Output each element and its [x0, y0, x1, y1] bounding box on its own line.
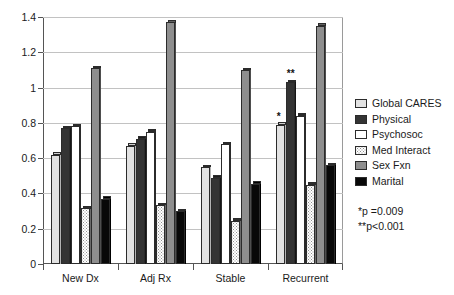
bar-cap: [233, 218, 241, 221]
bar-cap: [223, 142, 231, 145]
bar-cap: [308, 182, 316, 185]
y-axis-tick-label: 1.4: [21, 12, 36, 22]
bar-group: ***: [268, 17, 343, 264]
y-axis-tick-label: 1: [30, 83, 36, 93]
bar-cap: [53, 152, 61, 155]
bar-face: [211, 178, 219, 264]
legend-item[interactable]: Med Interact: [355, 143, 454, 159]
bar-cap: [63, 126, 71, 129]
legend-item[interactable]: Global CARES: [355, 96, 454, 112]
bar: [241, 70, 249, 264]
bar: [176, 211, 184, 264]
y-axis: 00.20.40.60.811.21.4: [0, 0, 43, 295]
bar-face: [101, 199, 109, 264]
legend-item-label: Sex Fxn: [372, 160, 411, 171]
legend-item[interactable]: Physical: [355, 112, 454, 128]
bar-cap: [168, 20, 176, 23]
swatch-med-interact-icon: [355, 146, 367, 155]
y-axis-tick-label: 0.6: [21, 153, 36, 163]
x-axis-tick: [268, 264, 269, 270]
bar-face: [51, 155, 59, 264]
bar-face: [231, 221, 239, 264]
bar-cap: [178, 209, 186, 212]
bar-face: [326, 165, 334, 264]
legend-item-label: Physical: [372, 114, 411, 125]
y-axis-tick-label: 0: [30, 259, 36, 269]
bar: [166, 22, 174, 264]
bar: [146, 132, 154, 264]
legend-item-label: Psychosoc: [372, 129, 423, 140]
bar-cap: [288, 80, 296, 83]
x-axis-tick: [118, 264, 119, 270]
bar-cap: [213, 175, 221, 178]
bar-face: [126, 146, 134, 264]
x-axis-tick: [43, 264, 44, 270]
bar-group: [43, 17, 118, 264]
legend-item[interactable]: Marital: [355, 174, 454, 190]
bar-cap: [148, 129, 156, 132]
x-axis-ticks: [43, 264, 343, 272]
bar-face: [276, 125, 284, 264]
bar: [211, 178, 219, 264]
bar-cap: [328, 163, 336, 166]
significance-marker: **: [287, 69, 295, 78]
bar-group: [118, 17, 193, 264]
bar: [101, 199, 109, 264]
bar: [276, 125, 284, 264]
bar-side: [185, 209, 187, 264]
bar-groups: ***: [43, 17, 343, 264]
bar: [51, 155, 59, 264]
bar: [316, 26, 324, 264]
bar: [61, 128, 69, 264]
bar-chart: 00.20.40.60.811.21.4 *** New DxAdj RxSta…: [0, 0, 454, 295]
bar-cap: [278, 122, 286, 125]
x-axis-category-label: Adj Rx: [118, 272, 193, 284]
x-axis-category-label: Recurrent: [268, 272, 343, 284]
swatch-psychosoc-icon: [355, 130, 367, 139]
bar-face: [71, 126, 79, 264]
bar: [306, 185, 314, 264]
bar-face: [306, 185, 314, 264]
bar: [71, 126, 79, 264]
plot-area: ***: [43, 17, 343, 264]
bar: [251, 184, 259, 264]
legend: Global CARESPhysicalPsychosocMed Interac…: [355, 96, 454, 189]
swatch-physical-icon: [355, 115, 367, 124]
legend-item[interactable]: Sex Fxn: [355, 158, 454, 174]
x-axis-labels: New DxAdj RxStableRecurrent: [43, 272, 343, 290]
bar-face: [296, 116, 304, 264]
swatch-global-cares-icon: [355, 99, 367, 108]
bar: [221, 144, 229, 264]
bar-face: [61, 128, 69, 264]
bar: [136, 139, 144, 264]
significance-marker: *: [277, 112, 281, 121]
bar: [156, 205, 164, 264]
bar-face: [201, 167, 209, 264]
legend-item-label: Med Interact: [372, 145, 430, 156]
x-axis-tick: [342, 264, 343, 270]
x-axis-tick: [193, 264, 194, 270]
bar-face: [221, 144, 229, 264]
x-axis-category-label: Stable: [193, 272, 268, 284]
bar-face: [91, 68, 99, 264]
bar-cap: [83, 206, 91, 209]
bar-face: [166, 22, 174, 264]
bar-cap: [253, 181, 261, 184]
bar: [201, 167, 209, 264]
footnotes: *p =0.009 **p<0.001: [358, 204, 454, 234]
bar-face: [146, 132, 154, 264]
x-axis-category-label: New Dx: [43, 272, 118, 284]
bar-cap: [103, 196, 111, 199]
footnote-single-star: *p =0.009: [358, 204, 454, 219]
legend-item-label: Marital: [372, 176, 404, 187]
y-axis-tick-label: 0.2: [21, 224, 36, 234]
bar: [286, 82, 294, 264]
bar-side: [335, 163, 337, 264]
legend-item[interactable]: Psychosoc: [355, 127, 454, 143]
bar-face: [241, 70, 249, 264]
bar-face: [251, 184, 259, 264]
bar: [81, 208, 89, 264]
y-axis-tick-label: 0.8: [21, 118, 36, 128]
bar-cap: [138, 136, 146, 139]
bar-face: [286, 82, 294, 264]
